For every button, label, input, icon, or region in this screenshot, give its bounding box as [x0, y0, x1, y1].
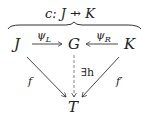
node-T: T — [68, 100, 78, 115]
psi-symbol: ψ — [37, 29, 46, 42]
overbrace — [8, 22, 141, 29]
node-J: J — [14, 37, 20, 52]
label-psiR: ψR — [96, 30, 111, 44]
label-fprime: f′ — [116, 76, 123, 87]
arrow-f — [27, 57, 66, 97]
label-psiL: ψL — [37, 30, 51, 44]
subscript-L: L — [46, 35, 51, 44]
psi-symbol: ψ — [96, 29, 105, 42]
node-K: K — [124, 37, 135, 52]
diagram-title: c: J ⇸ K — [45, 7, 95, 20]
label-f: f — [28, 76, 32, 87]
subscript-R: R — [105, 35, 111, 44]
node-G: G — [68, 37, 80, 52]
label-exists-h: ∃h — [81, 67, 94, 78]
